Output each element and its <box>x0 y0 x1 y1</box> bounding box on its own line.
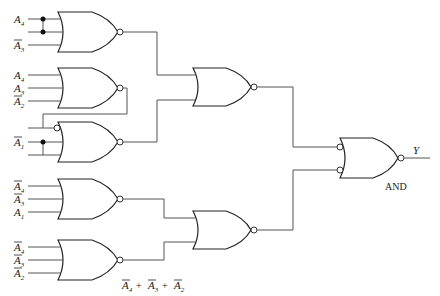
label-not-a2-g2: A2 <box>13 95 25 110</box>
svg-text:A4: A4 <box>13 13 25 28</box>
g1-to-g6-wire <box>123 32 195 75</box>
label-not-a2-g5: A2 <box>13 267 25 282</box>
output-label-y: Y <box>413 144 421 156</box>
svg-text:A2: A2 <box>173 279 185 294</box>
input-bubble <box>337 144 343 150</box>
g7-to-g8-wire <box>257 170 337 230</box>
input-bubble <box>337 167 343 173</box>
svg-text:A2: A2 <box>13 267 25 282</box>
inversion-bubble <box>117 85 123 91</box>
svg-text:A4 +: A4 + <box>121 279 142 294</box>
inversion-bubble <box>117 196 123 202</box>
junction-dot <box>41 17 46 22</box>
inversion-bubble <box>251 227 257 233</box>
junction-dot <box>41 30 46 35</box>
svg-text:A3: A3 <box>13 39 25 54</box>
inversion-bubble <box>398 155 404 161</box>
nor-gate-2 <box>58 68 123 108</box>
svg-text:A1: A1 <box>13 136 24 151</box>
label-a1-g4: A1 <box>13 206 24 221</box>
junction-dot <box>41 140 46 145</box>
logic-circuit-diagram: A4 A3 A4 A3 A2 A1 A4 <box>0 0 440 296</box>
gate-1-inputs <box>28 17 63 46</box>
inversion-bubble <box>117 139 123 145</box>
svg-text:A2: A2 <box>13 95 25 110</box>
svg-text:A1: A1 <box>13 206 24 221</box>
nor-gate-5 <box>58 240 123 280</box>
nor-gate-6 <box>193 68 257 106</box>
inversion-bubble <box>117 29 123 35</box>
nor-gate-1 <box>58 12 123 52</box>
g3-to-g6-wire <box>123 100 195 142</box>
expression-label: A4 + A3 + A2 <box>121 279 185 294</box>
g6-to-g8-wire <box>257 87 337 147</box>
label-a4-g1: A4 <box>13 13 25 28</box>
and-caption: AND <box>385 181 407 192</box>
svg-text:A3 +: A3 + <box>147 279 168 294</box>
nor-gate-7 <box>193 211 257 249</box>
label-not-a3-g1: A3 <box>13 39 25 54</box>
nor-gate-3 <box>54 122 123 162</box>
input-bubble <box>54 125 60 131</box>
nor-gate-4 <box>58 179 123 219</box>
and-gate-final <box>337 138 404 178</box>
g5-to-g7-wire <box>123 242 195 260</box>
g4-to-g7-wire <box>123 199 195 218</box>
label-not-a1-g3: A1 <box>13 136 24 151</box>
inversion-bubble <box>251 84 257 90</box>
inversion-bubble <box>117 257 123 263</box>
